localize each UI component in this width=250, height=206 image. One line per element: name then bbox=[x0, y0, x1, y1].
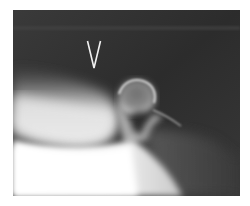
xray-image: V bbox=[13, 10, 240, 196]
xray-canvas bbox=[13, 10, 240, 196]
v-marker-icon bbox=[86, 40, 102, 70]
